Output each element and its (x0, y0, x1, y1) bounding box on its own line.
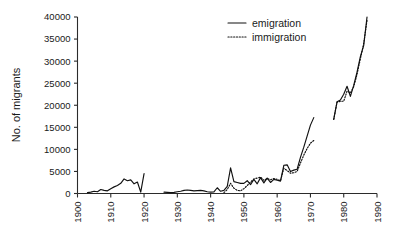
y-tick-label: 25000 (44, 78, 70, 89)
legend-label-immigration: immigration (252, 31, 306, 43)
y-tick-label: 10000 (44, 144, 70, 155)
y-tick-label: 35000 (44, 33, 70, 44)
x-tick-label: 1970 (305, 202, 316, 223)
x-tick-label: 1960 (272, 202, 283, 223)
x-tick-label: 1910 (105, 202, 116, 223)
y-tick-label: 5000 (49, 166, 70, 177)
y-tick-label: 0 (65, 188, 70, 199)
y-tick-label: 40000 (44, 11, 70, 22)
x-tick-label: 1900 (72, 202, 83, 223)
x-tick-label: 1980 (338, 202, 349, 223)
y-axis-title: No. of migrants (10, 67, 22, 142)
migration-line-chart: 0500010000150002000025000300003500040000… (0, 0, 395, 236)
x-tick-label: 1990 (372, 202, 383, 223)
y-tick-label: 30000 (44, 56, 70, 67)
y-tick-label: 20000 (44, 100, 70, 111)
legend-label-emigration: emigration (252, 17, 301, 29)
x-tick-label: 1940 (205, 202, 216, 223)
y-tick-label: 15000 (44, 122, 70, 133)
x-tick-label: 1920 (139, 202, 150, 223)
x-tick-label: 1950 (238, 202, 249, 223)
x-tick-label: 1930 (172, 202, 183, 223)
